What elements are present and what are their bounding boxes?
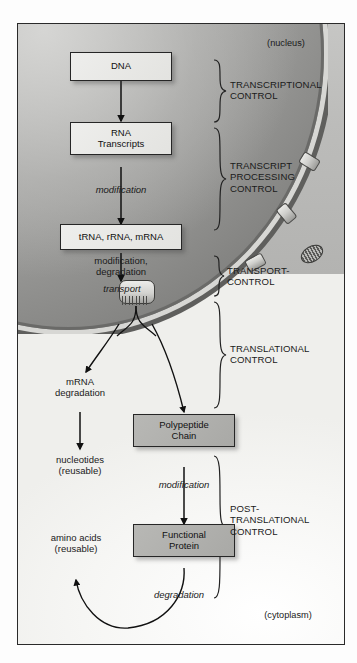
node-functional-protein-label: Functional Protein [162,530,206,552]
node-rna-transcripts[interactable]: RNA Transcripts [70,122,172,155]
label-nucleotides: nucleotides (reusable) [32,454,128,476]
label-cytoplasm: (cytoplasm) [246,610,330,621]
node-dna[interactable]: DNA [70,52,172,81]
edge-label-modification-1: modification [68,184,174,195]
control-label-translational: TRANSLATIONAL CONTROL [230,343,344,366]
edge-label-modification-2: modification [131,479,237,490]
control-label-transcript-processing: TRANSCRIPT PROCESSING CONTROL [230,160,342,194]
control-label-post-translational: POST- TRANSLATIONAL CONTROL [230,503,344,537]
node-polypeptide-chain[interactable]: Polypeptide Chain [133,414,235,447]
node-dna-label: DNA [111,61,131,72]
node-rnas-label: tRNA, rRNA, mRNA [79,232,163,243]
control-label-transcriptional: TRANSCRIPTIONAL CONTROL [230,79,342,102]
diagram-frame: DNA RNA Transcripts tRNA, rRNA, mRNA Pol… [17,23,345,645]
node-rnas[interactable]: tRNA, rRNA, mRNA [60,224,182,250]
edge-label-modification-degradation: modification, degradation [66,255,176,277]
node-rna-transcripts-label: RNA Transcripts [98,128,145,150]
edge-label-transport: transport [76,283,168,294]
gene-expression-diagram: DNA RNA Transcripts tRNA, rRNA, mRNA Pol… [0,0,357,663]
node-polypeptide-chain-label: Polypeptide Chain [159,420,209,442]
label-amino-acids: amino acids (reusable) [24,532,128,554]
label-nucleus: (nucleus) [246,38,326,49]
edge-label-degradation: degradation [126,589,232,600]
label-mrna-degradation: mRNA degradation [34,376,126,398]
control-label-transport-control: TRANSPORT- CONTROL [227,265,341,288]
node-functional-protein[interactable]: Functional Protein [133,524,235,557]
